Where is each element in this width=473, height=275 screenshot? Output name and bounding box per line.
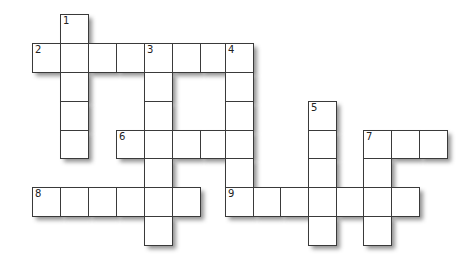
crossword-cell[interactable]: [88, 43, 117, 73]
clue-number: 6: [119, 131, 125, 143]
crossword-cell[interactable]: [172, 130, 201, 159]
crossword-cell[interactable]: [60, 130, 89, 159]
clue-number: 3: [147, 44, 153, 56]
crossword-cell[interactable]: [225, 158, 254, 188]
crossword-grid: 123495678: [0, 0, 473, 275]
crossword-cell[interactable]: [144, 158, 173, 188]
crossword-cell[interactable]: [172, 43, 201, 73]
crossword-cell[interactable]: [308, 158, 337, 188]
crossword-cell[interactable]: [225, 130, 254, 159]
crossword-cell[interactable]: [60, 187, 89, 217]
crossword-cell[interactable]: [144, 216, 173, 246]
crossword-cell[interactable]: [172, 187, 201, 217]
clue-number: 1: [63, 15, 69, 27]
crossword-cell[interactable]: 8: [32, 187, 61, 217]
clue-number: 5: [311, 102, 317, 114]
crossword-cell[interactable]: [225, 101, 254, 131]
crossword-cell[interactable]: [200, 130, 226, 159]
crossword-cell[interactable]: [363, 216, 392, 246]
crossword-cell[interactable]: [391, 130, 420, 159]
crossword-cell[interactable]: [200, 43, 226, 73]
crossword-cell[interactable]: [336, 187, 364, 217]
crossword-cell[interactable]: [308, 216, 337, 246]
crossword-cell[interactable]: 5: [308, 101, 337, 131]
clue-number: 4: [228, 44, 234, 56]
crossword-cell[interactable]: [419, 130, 448, 159]
crossword-cell[interactable]: [60, 72, 89, 102]
crossword-cell[interactable]: [253, 187, 281, 217]
clue-number: 9: [228, 188, 234, 200]
crossword-cell[interactable]: 3: [144, 43, 173, 73]
clue-number: 7: [366, 131, 372, 143]
crossword-cell[interactable]: [308, 187, 337, 217]
crossword-cell[interactable]: 4: [225, 43, 254, 73]
crossword-cell[interactable]: 6: [116, 130, 145, 159]
crossword-cell[interactable]: 1: [60, 14, 89, 44]
crossword-cell[interactable]: [144, 72, 173, 102]
clue-number: 8: [35, 188, 41, 200]
crossword-cell[interactable]: 7: [363, 130, 392, 159]
crossword-cell[interactable]: [391, 187, 420, 217]
crossword-cell[interactable]: 9: [225, 187, 254, 217]
crossword-cell[interactable]: [60, 101, 89, 131]
crossword-cell[interactable]: [280, 187, 309, 217]
crossword-cell[interactable]: [144, 130, 173, 159]
crossword-cell[interactable]: [144, 101, 173, 131]
clue-number: 2: [35, 44, 41, 56]
crossword-cell[interactable]: [363, 187, 392, 217]
crossword-cell[interactable]: [308, 130, 337, 159]
crossword-cell[interactable]: [363, 158, 392, 188]
crossword-cell[interactable]: [116, 43, 145, 73]
crossword-cell[interactable]: [116, 187, 145, 217]
crossword-cell[interactable]: [144, 187, 173, 217]
crossword-cell[interactable]: [225, 72, 254, 102]
crossword-cell[interactable]: [88, 187, 117, 217]
crossword-cell[interactable]: [60, 43, 89, 73]
crossword-cell[interactable]: 2: [32, 43, 61, 73]
